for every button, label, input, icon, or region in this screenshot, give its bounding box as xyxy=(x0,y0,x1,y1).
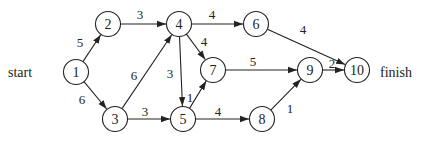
edge-weight: 2 xyxy=(329,56,336,71)
arrow-line xyxy=(180,36,183,106)
arrow-line xyxy=(83,35,101,62)
node-label: 3 xyxy=(112,112,119,127)
node-label: 1 xyxy=(73,65,80,80)
edge-5-8: 4 xyxy=(196,104,250,119)
edge-weight: 5 xyxy=(77,35,84,50)
node-5: 5 xyxy=(171,107,196,132)
node-4: 4 xyxy=(167,12,192,37)
node-9: 9 xyxy=(298,58,323,83)
edge-weight: 4 xyxy=(300,22,307,37)
node-label: 5 xyxy=(180,112,187,127)
edge-8-9: 1 xyxy=(271,79,301,116)
edge-weight: 3 xyxy=(167,66,174,81)
node-1: 1 xyxy=(64,60,89,85)
edge-4-7: 4 xyxy=(186,34,207,60)
edge-weight: 5 xyxy=(250,54,257,69)
node-10: 10 xyxy=(345,58,370,83)
edge-3-4: 6 xyxy=(122,35,172,109)
node-label: 9 xyxy=(307,63,314,78)
edge-weight: 6 xyxy=(79,92,86,107)
edge-9-10: 2 xyxy=(323,56,345,71)
edge-4-5: 3 xyxy=(167,36,183,106)
edge-4-6: 4 xyxy=(192,7,244,24)
edge-weight: 4 xyxy=(215,104,222,119)
edge-7-9: 5 xyxy=(226,54,298,70)
edge-3-5: 3 xyxy=(128,104,171,119)
node-6: 6 xyxy=(244,12,269,37)
network-diagram: 56363443144512 12345678910 start finish xyxy=(0,0,423,145)
node-label: 8 xyxy=(259,112,266,127)
edge-weight: 3 xyxy=(137,7,144,22)
node-label: 6 xyxy=(253,17,260,32)
node-label: 7 xyxy=(210,63,217,78)
node-3: 3 xyxy=(103,107,128,132)
edge-1-3: 6 xyxy=(79,82,107,109)
node-label: 10 xyxy=(350,63,364,78)
node-label: 4 xyxy=(176,17,183,32)
edge-weight: 4 xyxy=(201,34,208,49)
node-7: 7 xyxy=(201,58,226,83)
edge-weight: 1 xyxy=(187,90,194,105)
edge-weight: 1 xyxy=(287,101,294,116)
node-2: 2 xyxy=(96,12,121,37)
node-label: 2 xyxy=(105,17,112,32)
node-8: 8 xyxy=(250,107,275,132)
edge-weight: 6 xyxy=(131,68,138,83)
finish-label: finish xyxy=(380,65,412,80)
start-label: start xyxy=(8,65,32,80)
arrow-line xyxy=(122,35,172,109)
edge-weight: 3 xyxy=(142,104,149,119)
arrow-line xyxy=(84,82,107,109)
edge-1-2: 5 xyxy=(77,35,101,62)
edge-2-4: 3 xyxy=(121,7,167,24)
edge-weight: 4 xyxy=(209,7,216,22)
edge-5-7: 1 xyxy=(187,81,206,108)
